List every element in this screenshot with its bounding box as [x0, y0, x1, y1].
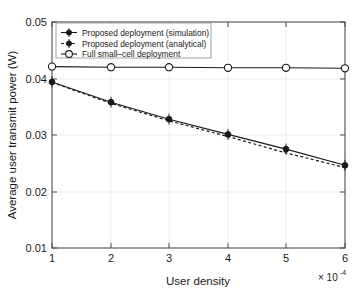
x-axis-exponent-base: × 10 [318, 272, 338, 283]
x-tick-label-3: 4 [225, 252, 231, 264]
y-tick-label-4: 0.05 [26, 16, 47, 28]
legend-label-simulation: Proposed deployment (simulation) [82, 28, 209, 38]
x-tick-label-5: 6 [342, 252, 348, 264]
legend: Proposed deployment (simulation) Propose… [56, 23, 211, 59]
x-tick-label-1: 2 [108, 252, 114, 264]
y-tick-label-0: 0.01 [26, 242, 47, 254]
x-tick-label-0: 1 [49, 252, 55, 264]
legend-entry-simulation[interactable]: Proposed deployment (simulation) [61, 28, 209, 38]
y-tick-label-3: 0.04 [26, 73, 47, 85]
legend-label-full-small-cell: Full small–cell deployment [82, 49, 181, 59]
legend-marker-full-small-cell [66, 51, 73, 58]
transmit-power-line-chart: 0.01 0.02 0.03 0.04 0.05 1 2 3 4 5 6 Use… [0, 0, 363, 299]
x-tick-label-4: 5 [283, 252, 289, 264]
x-axis-exponent-power: -4 [340, 269, 346, 276]
x-tick-label-2: 3 [166, 252, 172, 264]
chart-figure: 0.01 0.02 0.03 0.04 0.05 1 2 3 4 5 6 Use… [0, 0, 363, 299]
legend-entry-analytical[interactable]: Proposed deployment (analytical) [61, 39, 207, 49]
y-axis-title: Average user transmit power (W) [6, 51, 18, 220]
x-axis-title: User density [166, 275, 230, 287]
y-tick-label-1: 0.02 [26, 186, 47, 198]
legend-label-analytical: Proposed deployment (analytical) [82, 39, 207, 49]
y-tick-label-2: 0.03 [26, 129, 47, 141]
